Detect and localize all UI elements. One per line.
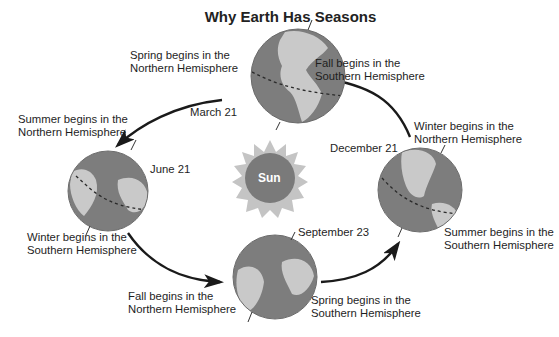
label-winter-north: Winter begins in the Northern Hemisphere <box>414 120 522 146</box>
sun-label: Sun <box>258 171 281 185</box>
label-line: Winter begins in the <box>414 120 522 133</box>
label-winter-south: Winter begins in the Southern Hemisphere <box>27 231 137 257</box>
label-line: Spring begins in the <box>311 294 421 307</box>
label-summer-north: Summer begins in the Northern Hemisphere <box>18 113 128 139</box>
label-line: Southern Hemisphere <box>444 239 554 252</box>
label-line: Southern Hemisphere <box>27 244 137 257</box>
date-march-21: March 21 <box>190 106 237 118</box>
label-line: Southern Hemisphere <box>315 70 425 83</box>
label-fall-north: Fall begins in the Northern Hemisphere <box>128 290 236 316</box>
date-december-21: December 21 <box>330 142 398 154</box>
label-line: Northern Hemisphere <box>18 126 128 139</box>
label-line: Fall begins in the <box>315 57 425 70</box>
orbit-arrow-september-to-december <box>321 244 398 282</box>
label-line: Northern Hemisphere <box>130 62 238 75</box>
label-line: Summer begins in the <box>18 113 128 126</box>
date-june-21: June 21 <box>150 163 190 175</box>
label-line: Spring begins in the <box>130 49 238 62</box>
label-spring-north: Spring begins in the Northern Hemisphere <box>130 49 238 75</box>
diagram-artwork <box>0 0 559 337</box>
label-summer-south: Summer begins in the Southern Hemisphere <box>444 226 554 252</box>
date-september-23: September 23 <box>298 226 369 238</box>
label-spring-south: Spring begins in the Southern Hemisphere <box>311 294 421 320</box>
label-fall-south: Fall begins in the Southern Hemisphere <box>315 57 425 83</box>
label-line: Northern Hemisphere <box>414 133 522 146</box>
label-line: Summer begins in the <box>444 226 554 239</box>
label-line: Fall begins in the <box>128 290 236 303</box>
label-line: Winter begins in the <box>27 231 137 244</box>
orbit-arrow-june-to-september <box>128 233 220 282</box>
label-line: Northern Hemisphere <box>128 303 236 316</box>
label-line: Southern Hemisphere <box>311 307 421 320</box>
